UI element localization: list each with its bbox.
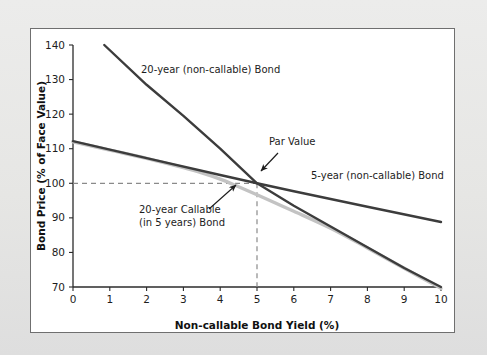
axes-group: 708090100110120130140012345678910Non-cal… [35, 39, 448, 331]
annotation-twenty-year-callable: 20-year Callable(in 5 years) Bond [139, 185, 236, 228]
annotation-label-par-value: Par Value [269, 136, 315, 147]
x-tick-label: 8 [364, 293, 371, 305]
x-tick-label: 5 [254, 293, 261, 305]
y-tick-label: 140 [45, 39, 65, 51]
annotation-twenty-year-noncallable: 20-year (non-callable) Bond [141, 64, 280, 75]
x-axis-title: Non-callable Bond Yield (%) [175, 319, 339, 331]
data-series-group [73, 45, 441, 288]
annotation-arrow-twenty-year-callable [209, 185, 236, 209]
y-tick-label: 100 [45, 177, 65, 189]
plot-frame: 708090100110120130140012345678910Non-cal… [30, 28, 455, 333]
x-tick-label: 7 [327, 293, 334, 305]
annotation-label-twenty-year-noncallable: 20-year (non-callable) Bond [141, 64, 280, 75]
x-tick-label: 0 [70, 293, 77, 305]
annotation-five-year-noncallable: 5-year (non-callable) Bond [311, 170, 444, 181]
annotation-arrow-par-value [261, 153, 278, 171]
annotation-par-value: Par Value [261, 136, 315, 171]
x-tick-label: 2 [143, 293, 150, 305]
x-tick-label: 10 [434, 293, 447, 305]
x-tick-label: 4 [217, 293, 224, 305]
x-tick-label: 9 [401, 293, 408, 305]
bond-price-yield-chart: 708090100110120130140012345678910Non-cal… [31, 29, 454, 332]
y-tick-label: 70 [52, 281, 65, 293]
x-tick-label: 3 [180, 293, 187, 305]
y-axis-title: Bond Price (% of Face Value) [35, 81, 47, 251]
y-tick-label: 120 [45, 108, 65, 120]
y-tick-label: 110 [45, 142, 65, 154]
y-tick-label: 80 [52, 246, 65, 258]
figure-container: 708090100110120130140012345678910Non-cal… [0, 0, 487, 355]
series-line-5-year-non-callable-bond [73, 141, 441, 222]
annotation-label-twenty-year-callable: (in 5 years) Bond [139, 217, 225, 228]
x-tick-label: 6 [290, 293, 297, 305]
x-tick-label: 1 [106, 293, 113, 305]
annotation-label-twenty-year-callable: 20-year Callable [139, 204, 221, 215]
y-tick-label: 90 [52, 211, 65, 223]
series-line-20-year-non-callable-bond [104, 45, 441, 287]
reference-lines-group [73, 183, 257, 287]
y-tick-label: 130 [45, 73, 65, 85]
annotation-label-five-year-noncallable: 5-year (non-callable) Bond [311, 170, 444, 181]
